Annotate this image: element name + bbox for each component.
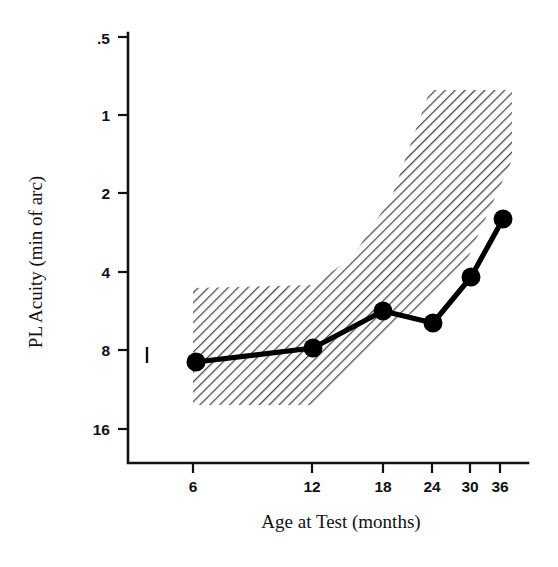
data-point-marker — [374, 302, 393, 321]
x-tick-label: 30 — [461, 478, 478, 495]
y-tick-label: 8 — [101, 342, 110, 359]
x-axis-title: Age at Test (months) — [261, 511, 420, 533]
y-tick-label: 4 — [101, 264, 110, 281]
x-tick-label: 6 — [189, 478, 198, 495]
x-tick-label: 18 — [374, 478, 392, 495]
data-point-marker — [494, 210, 513, 229]
data-point-marker — [304, 339, 323, 358]
y-tick-label: 2 — [101, 185, 110, 202]
y-tick-label: .5 — [97, 30, 110, 47]
x-tick-label: 24 — [423, 478, 441, 495]
acuity-vs-age-plot: .5 1 2 4 8 16 6 12 18 24 30 36 — [0, 0, 558, 567]
data-point-marker — [424, 314, 443, 333]
y-tick-label: 1 — [101, 107, 110, 124]
x-tick-label: 36 — [491, 478, 509, 495]
data-point-marker — [187, 353, 206, 372]
x-tick-label: 12 — [303, 478, 320, 495]
y-axis-title: PL Acuity (min of arc) — [25, 176, 47, 348]
data-point-marker — [462, 268, 481, 287]
y-tick-label: 16 — [93, 421, 111, 438]
chart-figure: .5 1 2 4 8 16 6 12 18 24 30 36 — [0, 0, 558, 567]
